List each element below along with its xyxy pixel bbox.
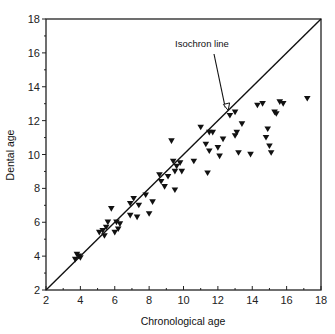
x-tick-label: 10 [177, 294, 189, 306]
data-point-triangle [268, 150, 275, 156]
y-tick-label: 12 [28, 115, 40, 127]
data-point-triangle [203, 142, 210, 148]
data-point-triangle [173, 164, 180, 170]
data-point-triangle [111, 230, 118, 236]
x-tick-label: 16 [281, 294, 293, 306]
x-tick-label: 2 [43, 294, 49, 306]
data-point-triangle [127, 213, 134, 219]
data-point-triangle [254, 103, 261, 109]
data-point-triangle [206, 148, 213, 154]
data-point-triangle [136, 203, 143, 209]
y-tick-label: 2 [34, 284, 40, 296]
data-point-triangle [172, 187, 179, 193]
data-point-triangle [266, 143, 273, 149]
y-tick-label: 10 [28, 149, 40, 161]
data-point-triangle [105, 220, 112, 226]
x-axis-title: Chronological age [141, 315, 226, 327]
data-point-triangle [101, 233, 108, 239]
annotation: Isochron line [175, 38, 230, 110]
x-tick-label: 4 [77, 294, 83, 306]
data-point-triangle [247, 152, 254, 158]
y-tick-label: 6 [34, 216, 40, 228]
y-tick-label: 4 [34, 250, 40, 262]
y-tick-label: 18 [28, 13, 40, 25]
data-point-triangle [227, 113, 234, 119]
data-point-triangle [165, 174, 172, 180]
data-point-triangle [216, 154, 223, 160]
data-point-triangle [161, 184, 168, 190]
data-point-triangle [134, 215, 141, 221]
data-point-triangle [168, 138, 175, 144]
isochron-line-path [46, 19, 321, 290]
data-point-triangle [264, 126, 271, 132]
data-point-triangle [108, 206, 115, 212]
x-tick-label: 12 [212, 294, 224, 306]
data-point-triangle [239, 121, 246, 127]
data-point-triangle [204, 170, 211, 176]
data-points [72, 96, 311, 263]
data-point-triangle [146, 211, 153, 217]
data-point-triangle [191, 159, 198, 165]
data-point-triangle [142, 193, 149, 199]
annotation-arrow-shaft [214, 54, 225, 107]
data-point-triangle [220, 137, 227, 143]
data-point-triangle [197, 125, 204, 131]
x-tick-label: 6 [112, 294, 118, 306]
x-tick-label: 8 [146, 294, 152, 306]
isochron-label: Isochron line [175, 38, 229, 49]
y-tick-label: 16 [28, 47, 40, 59]
y-tick-label: 14 [28, 81, 40, 93]
data-point-triangle [259, 101, 266, 107]
y-axis-title: Dental age [4, 129, 16, 180]
y-tick-label: 8 [34, 182, 40, 194]
x-tick-label: 18 [315, 294, 327, 306]
isochron-line [46, 19, 321, 290]
data-point-triangle [235, 150, 242, 156]
data-point-triangle [232, 110, 239, 116]
x-tick-label: 14 [246, 294, 258, 306]
annotation-arrowhead-icon [223, 103, 229, 111]
data-point-triangle [215, 145, 222, 151]
data-point-triangle [149, 199, 156, 205]
data-point-triangle [172, 169, 179, 175]
data-point-triangle [263, 135, 270, 141]
data-point-triangle [280, 101, 287, 107]
data-point-triangle [304, 96, 311, 102]
scatter-chart: 2468101214161824681012141618 Isochron li… [0, 0, 335, 334]
data-point-triangle [158, 179, 165, 185]
data-point-triangle [178, 169, 185, 175]
